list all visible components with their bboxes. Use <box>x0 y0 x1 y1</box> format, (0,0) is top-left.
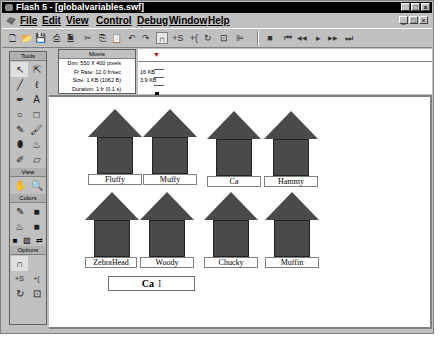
tools-panel: Tools ↖ ⇱ ╱ ℓ ✒ A ○ □ ✎ 🖌 ⬮ ♨ ✐ ▱ View ✋… <box>9 51 47 325</box>
lasso-tool-icon[interactable]: ℓ <box>28 77 45 92</box>
menu-window[interactable]: Window <box>169 15 207 26</box>
house-label-textbox[interactable]: Muffin <box>265 257 319 268</box>
stroke-color-icon[interactable]: ✎ <box>11 204 28 219</box>
hand-tool-icon[interactable]: ✋ <box>11 178 28 193</box>
menu-file[interactable]: File <box>20 15 37 26</box>
options-header: Options <box>10 246 46 255</box>
rectangle-tool-icon[interactable]: □ <box>28 107 45 122</box>
open-icon[interactable]: 📂 <box>20 32 32 44</box>
title-bar[interactable]: Flash 5 - [globalvariables.swf] _ □ × <box>2 2 432 13</box>
flash-app-icon <box>5 4 13 11</box>
smooth-icon[interactable]: +S <box>172 32 184 44</box>
colors-header: Colors <box>10 194 46 203</box>
movie-duration: Duration: 1 fr (0.1 s) <box>59 85 135 94</box>
window-title: Flash 5 - [globalvariables.swf] <box>16 2 144 13</box>
flash-player-window: Flash 5 - [globalvariables.swf] _ □ × Fi… <box>0 0 434 334</box>
cut-icon[interactable]: ✂ <box>82 32 94 44</box>
scale-option-icon[interactable]: ⊡ <box>28 286 45 301</box>
menu-bar: File Edit View Control Debug Window Help… <box>2 14 432 27</box>
menu-control[interactable]: Control <box>96 15 132 26</box>
bandwidth-lines <box>154 77 164 86</box>
rewind-icon[interactable]: ⏮ <box>282 32 294 44</box>
house-label-textbox[interactable]: Ca <box>207 176 261 187</box>
smooth-option-icon[interactable]: +S <box>11 271 28 286</box>
input-value: Ca <box>142 278 154 289</box>
new-icon[interactable]: 🗋 <box>6 32 18 44</box>
align-icon[interactable]: ⊫ <box>234 32 246 44</box>
tools-header: Tools <box>10 52 46 61</box>
menu-view[interactable]: View <box>66 15 89 26</box>
playhead-icon[interactable]: ▼ <box>153 51 160 58</box>
fill-color-icon[interactable]: ♨ <box>11 219 28 234</box>
ink-bottle-tool-icon[interactable]: ⬮ <box>11 137 28 152</box>
menu-edit[interactable]: Edit <box>42 15 61 26</box>
minimize-button[interactable]: _ <box>401 3 410 11</box>
arrow-tool-icon[interactable]: ↖ <box>11 62 28 77</box>
rotate-icon[interactable]: ↻ <box>202 32 214 44</box>
pencil-tool-icon[interactable]: ✎ <box>11 122 28 137</box>
close-button[interactable]: × <box>421 3 430 11</box>
house-label-textbox[interactable]: ZebraHead <box>85 257 137 268</box>
paste-icon[interactable]: 📋 <box>110 32 122 44</box>
brush-tool-icon[interactable]: 🖌 <box>28 122 45 137</box>
stroke-swatch-icon[interactable]: ■ <box>28 204 45 219</box>
print-preview-icon[interactable]: 🗎 <box>64 32 76 44</box>
maximize-button[interactable]: □ <box>411 3 420 11</box>
bandwidth-label-16kb: 16 KB <box>140 69 155 75</box>
straighten-icon[interactable]: +( <box>188 32 200 44</box>
snap-magnet-icon[interactable]: ∩ <box>156 32 168 44</box>
redo-icon[interactable]: ↷ <box>140 32 152 44</box>
step-forward-icon[interactable]: ▶▶ <box>327 32 339 44</box>
timeline-ruler[interactable] <box>138 49 432 62</box>
empty-option-slot <box>28 256 45 271</box>
house-label-textbox[interactable]: Fluffy <box>88 174 142 185</box>
house-label-textbox[interactable]: Hammy <box>264 176 318 187</box>
doc-minimize-button[interactable]: _ <box>399 16 408 24</box>
print-icon[interactable]: ⎙ <box>50 32 62 44</box>
movie-dimensions: Dim: 550 X 400 pixels <box>59 59 135 68</box>
house-label-textbox[interactable]: Muffy <box>143 174 197 185</box>
save-icon[interactable]: 💾 <box>34 32 46 44</box>
text-cursor-icon: I <box>158 277 161 291</box>
oval-tool-icon[interactable]: ○ <box>11 107 28 122</box>
house-label-textbox[interactable]: Woody <box>140 257 194 268</box>
line-tool-icon[interactable]: ╱ <box>11 77 28 92</box>
document-menu-icon[interactable] <box>6 17 16 25</box>
fill-swatch-icon[interactable]: ■ <box>28 219 45 234</box>
bandwidth-profiler <box>138 62 432 94</box>
snap-option-icon[interactable]: ∩ <box>11 256 28 271</box>
subselect-tool-icon[interactable]: ⇱ <box>28 62 45 77</box>
undo-icon[interactable]: ↶ <box>126 32 138 44</box>
paint-bucket-tool-icon[interactable]: ♨ <box>28 137 45 152</box>
movie-header: Movie <box>59 50 135 59</box>
scale-icon[interactable]: ⊡ <box>218 32 230 44</box>
play-icon[interactable]: ▸ <box>312 32 324 44</box>
name-input-field[interactable]: CaI <box>108 276 195 291</box>
movie-frame-rate: Fr Rate: 12.0 fr/sec <box>59 68 135 77</box>
doc-close-button[interactable]: × <box>419 16 428 24</box>
text-tool-icon[interactable]: A <box>28 92 45 107</box>
toolbar-divider <box>257 31 259 46</box>
step-back-icon[interactable]: ◀◀ <box>296 32 308 44</box>
stop-icon[interactable]: ■ <box>264 32 276 44</box>
view-header: View <box>10 168 46 177</box>
doc-restore-button[interactable]: □ <box>409 16 418 24</box>
menu-help[interactable]: Help <box>208 15 230 26</box>
main-toolbar: 🗋 📂 💾 ⎙ 🗎 ✂ ⎘ 📋 ↶ ↷ ∩ +S +( ↻ ⊡ ⊫ ■ ⏮ ◀◀… <box>2 28 432 48</box>
straighten-option-icon[interactable]: +( <box>28 271 45 286</box>
go-to-end-icon[interactable]: ⏭ <box>343 32 355 44</box>
swap-colors-icon[interactable]: ⇄ <box>36 235 43 246</box>
movie-info-panel: Movie Dim: 550 X 400 pixels Fr Rate: 12.… <box>58 49 136 94</box>
dropper-tool-icon[interactable]: ✐ <box>11 152 28 167</box>
pen-tool-icon[interactable]: ✒ <box>11 92 28 107</box>
no-color-icon[interactable]: ▨ <box>23 235 31 246</box>
rotate-option-icon[interactable]: ↻ <box>11 286 28 301</box>
eraser-tool-icon[interactable]: ▱ <box>28 152 45 167</box>
movie-size: Size: 1 KB (1062 B) <box>59 76 135 85</box>
house-label-textbox[interactable]: Chucky <box>204 257 258 268</box>
menu-debug[interactable]: Debug <box>137 15 168 26</box>
zoom-tool-icon[interactable]: 🔍 <box>28 178 45 193</box>
default-colors-icon[interactable]: ■ <box>13 235 18 246</box>
copy-icon[interactable]: ⎘ <box>96 32 108 44</box>
